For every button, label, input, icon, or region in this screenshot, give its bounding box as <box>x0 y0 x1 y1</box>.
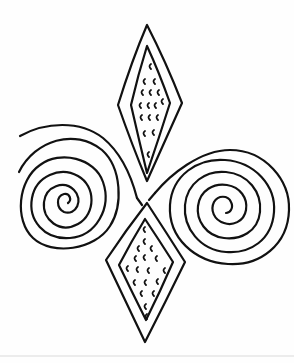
top-diamond <box>118 25 182 181</box>
line-art-canvas: Spiral and diamond line-art design <box>0 0 294 363</box>
bottom-divider <box>0 355 294 357</box>
left-spiral <box>19 125 137 248</box>
